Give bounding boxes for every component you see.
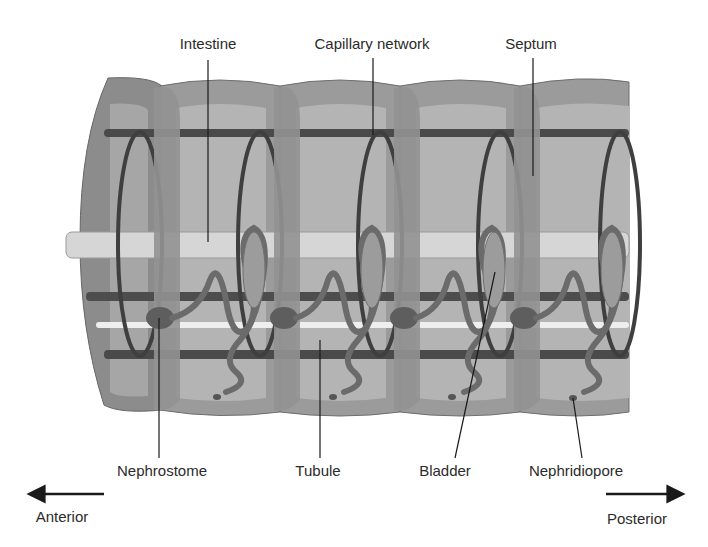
label-capillary-network: Capillary network [314, 35, 429, 52]
label-bladder: Bladder [419, 462, 471, 479]
label-intestine: Intestine [180, 35, 237, 52]
label-nephrostome: Nephrostome [117, 462, 207, 479]
label-septum: Septum [505, 35, 557, 52]
label-anterior: Anterior [36, 508, 89, 525]
label-posterior: Posterior [607, 510, 667, 527]
label-nephridiopore: Nephridiopore [529, 462, 623, 479]
label-tubule: Tubule [295, 462, 340, 479]
intestine-tube [66, 232, 629, 258]
